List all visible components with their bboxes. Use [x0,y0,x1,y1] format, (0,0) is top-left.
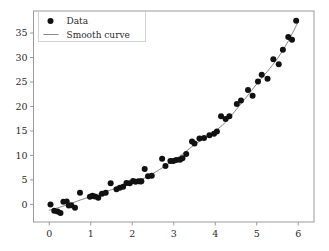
y-tick-label: 25 [15,76,27,87]
data-point [259,72,265,78]
data-point [289,37,295,43]
x-tick-label: 5 [254,228,260,239]
data-point [250,93,256,99]
data-point [276,61,282,67]
x-tick-label: 4 [212,228,218,239]
legend-label: Smooth curve [67,30,130,40]
data-point [192,140,198,146]
y-tick-label: 35 [15,27,27,38]
x-tick-label: 3 [171,228,177,239]
x-tick-label: 0 [46,228,52,239]
x-tick-label: 1 [88,228,94,239]
x-tick-label: 6 [295,228,301,239]
y-tick-label: 0 [21,199,27,210]
legend-label: Data [67,16,89,26]
data-point [142,166,148,172]
data-point [270,56,276,62]
y-tick-label: 20 [15,101,27,112]
y-tick-label: 10 [15,150,27,161]
y-tick-label: 5 [21,174,27,185]
data-point [201,135,207,141]
data-point [280,47,286,53]
scatter-plot-canvas: 0123456 05101520253035 DataSmooth curve [0,0,329,251]
y-tick-label: 30 [15,52,27,63]
data-point [48,201,54,207]
data-point [265,76,271,82]
data-point [103,190,109,196]
data-point [77,190,83,196]
data-point [238,98,244,104]
x-tick-label: 2 [129,228,135,239]
data-point [183,151,189,157]
data-point [159,156,165,162]
data-point [57,210,63,216]
y-tick-label: 15 [15,125,27,136]
data-point [138,178,144,184]
legend-marker-data [48,18,54,24]
data-point [226,113,232,119]
data-point [293,18,299,24]
data-point [162,163,168,169]
data-point [245,87,251,93]
chart-legend: DataSmooth curve [39,12,146,42]
chart-figure: 0123456 05101520253035 DataSmooth curve [0,0,329,251]
data-point [214,128,220,134]
data-point [149,173,155,179]
data-point [72,205,78,211]
data-point [108,180,114,186]
data-point [255,79,261,85]
